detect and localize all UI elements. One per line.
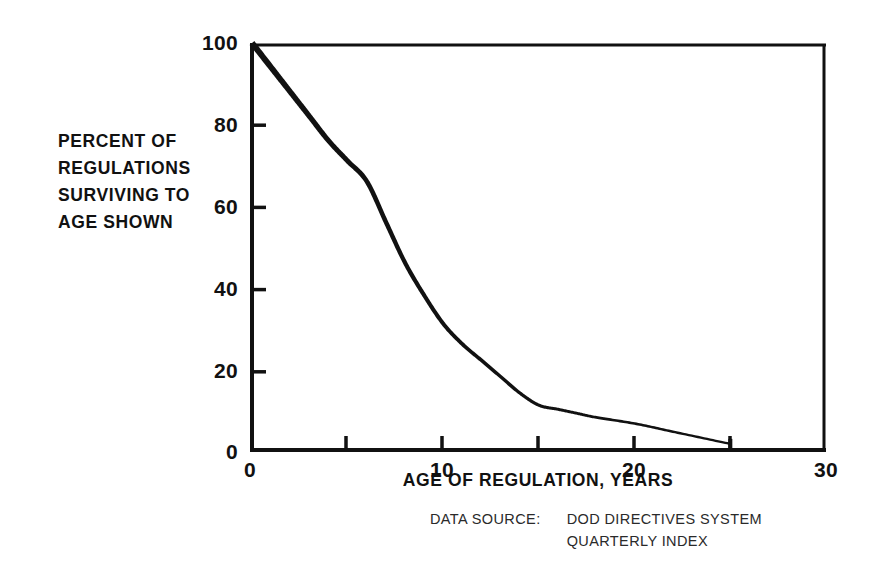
survival-curve-figure: PERCENT OF REGULATIONS SURVIVING TO AGE … bbox=[0, 0, 887, 568]
survival-curve bbox=[250, 41, 731, 450]
y-axis-ticks bbox=[252, 125, 266, 372]
data-source-note: DATA SOURCE: DOD DIRECTIVES SYSTEM QUART… bbox=[430, 508, 762, 552]
data-source-value: DOD DIRECTIVES SYSTEM QUARTERLY INDEX bbox=[567, 508, 762, 552]
data-source-label: DATA SOURCE: bbox=[430, 508, 541, 552]
data-source-line-2: QUARTERLY INDEX bbox=[567, 530, 762, 552]
x-axis-ticks bbox=[346, 436, 730, 450]
axis-frame bbox=[250, 43, 826, 452]
data-source-line-1: DOD DIRECTIVES SYSTEM bbox=[567, 508, 762, 530]
x-axis-title: AGE OF REGULATION, YEARS bbox=[250, 470, 826, 491]
survival-curve-path bbox=[250, 41, 731, 445]
